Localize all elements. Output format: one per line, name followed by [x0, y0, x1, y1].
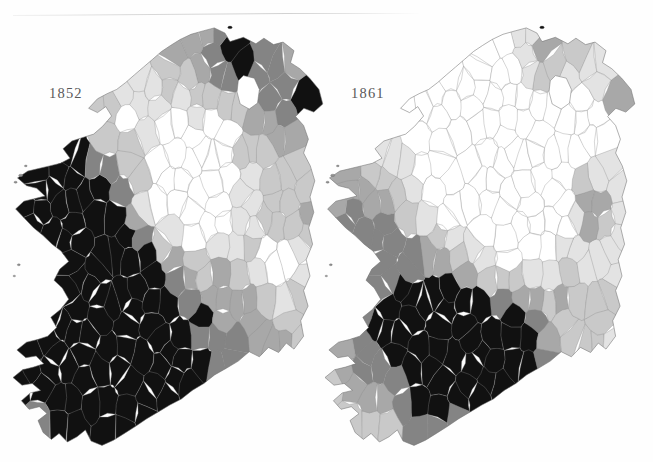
- district: [15, 52, 83, 167]
- district: [491, 368, 576, 454]
- map-panel-1852: 1852: [6, 24, 326, 454]
- district: [318, 213, 356, 288]
- district: [210, 257, 230, 289]
- district: [6, 401, 50, 454]
- district: [318, 128, 347, 260]
- ireland-choropleth-1861: [318, 24, 638, 454]
- district: [447, 403, 539, 454]
- offshore-island: [540, 26, 544, 29]
- district: [327, 52, 395, 167]
- district: [410, 385, 431, 418]
- district: [427, 415, 502, 455]
- district: [598, 320, 638, 454]
- offshore-island: [24, 165, 27, 167]
- district: [206, 350, 269, 454]
- offshore-island: [326, 181, 329, 183]
- district: [361, 24, 464, 91]
- district: [279, 330, 292, 454]
- district: [6, 275, 63, 330]
- district: [6, 128, 35, 260]
- district: [50, 410, 68, 454]
- offshore-island: [228, 26, 232, 29]
- map-panel-1861: 1861: [318, 24, 638, 454]
- district: [522, 259, 543, 289]
- district: [6, 24, 105, 133]
- offshore-island: [329, 264, 332, 266]
- offshore-island: [14, 181, 17, 183]
- district: [242, 284, 257, 314]
- header-rule: [13, 13, 635, 19]
- offshore-island: [325, 275, 328, 277]
- district: [318, 24, 417, 133]
- district: [6, 24, 51, 184]
- district: [318, 401, 362, 454]
- district: [49, 24, 152, 92]
- district: [594, 24, 638, 80]
- district: [518, 350, 581, 454]
- district: [318, 287, 356, 361]
- district: [135, 403, 227, 454]
- offshore-island: [336, 165, 339, 167]
- running-head: [0, 0, 653, 9]
- district: [407, 24, 501, 67]
- scanned-page: 1852 1861: [0, 0, 653, 462]
- district: [6, 213, 44, 287]
- district: [318, 24, 363, 184]
- ireland-choropleth-1852: [6, 24, 326, 454]
- district: [179, 368, 264, 454]
- offshore-island: [19, 174, 23, 176]
- district: [318, 276, 375, 331]
- district: [362, 411, 380, 454]
- offshore-island: [331, 174, 335, 176]
- district: [95, 24, 189, 67]
- district: [170, 315, 192, 349]
- district: [97, 385, 119, 417]
- offshore-island: [17, 264, 20, 266]
- district: [115, 415, 190, 455]
- district: [6, 287, 44, 362]
- offshore-island: [13, 275, 16, 277]
